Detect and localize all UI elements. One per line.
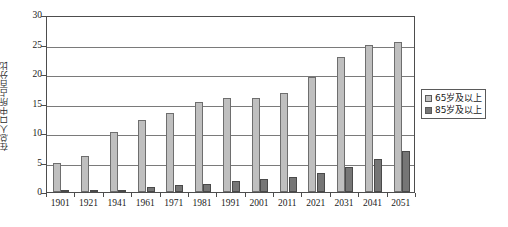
x-axis-tick-mark [273, 193, 274, 197]
x-axis-tick-mark [301, 193, 302, 197]
bar-1961-series1 [138, 120, 146, 192]
x-axis-tick-mark [415, 193, 416, 197]
legend-swatch-icon [425, 107, 432, 114]
y-axis-tick-mark [41, 193, 46, 194]
bar-2051-series1 [394, 42, 402, 192]
y-axis-tick-label: 25 [24, 41, 42, 51]
y-axis-tick-mark [41, 164, 46, 165]
bar-1991-series1 [223, 98, 231, 192]
y-axis-tick-mark [41, 46, 46, 47]
y-axis-tick-mark [41, 16, 46, 17]
bar-1921-series2 [90, 190, 98, 192]
bar-1941-series1 [110, 132, 118, 192]
bar-2011-series1 [280, 93, 288, 192]
bar-1971-series2 [175, 185, 183, 192]
bar-2041-series2 [374, 159, 382, 192]
bar-2021-series1 [308, 77, 316, 192]
x-axis-tick-mark [46, 193, 47, 197]
x-axis-tick-mark [358, 193, 359, 197]
figure-caption [4, 219, 504, 227]
x-axis-tick-mark [188, 193, 189, 197]
legend-label: 65岁及以上 [435, 93, 482, 103]
x-axis-tick-mark [131, 193, 132, 197]
gridline [47, 47, 414, 48]
y-axis-tick-label: 15 [24, 100, 42, 110]
y-axis-tick-mark [41, 75, 46, 76]
x-axis-tick-label: 2051 [381, 198, 421, 209]
x-axis-tick-mark [387, 193, 388, 197]
bar-2041-series1 [365, 45, 373, 193]
y-axis-tick-label: 0 [24, 188, 42, 198]
y-axis-tick-label: 5 [24, 159, 42, 169]
legend-swatch-icon [425, 95, 432, 102]
bar-chart: 在总人口中所占百分比 051015202530 1901192119411961… [0, 0, 508, 227]
bar-1921-series1 [81, 156, 89, 192]
chart-legend: 65岁及以上85岁及以上 [421, 89, 486, 119]
x-axis-tick-mark [216, 193, 217, 197]
bar-1991-series2 [232, 181, 240, 192]
y-axis-tick-labels: 051015202530 [20, 0, 42, 227]
y-axis-title: 在总人口中所占百分比 [1, 26, 15, 186]
bar-2051-series2 [402, 151, 410, 192]
bar-2011-series2 [289, 177, 297, 192]
y-axis-tick-label: 20 [24, 70, 42, 80]
bar-2031-series1 [337, 57, 345, 192]
legend-item-2: 85岁及以上 [425, 104, 482, 116]
bar-1901-series1 [53, 163, 61, 193]
y-axis-tick-label: 10 [24, 129, 42, 139]
x-axis-tick-mark [74, 193, 75, 197]
bar-1981-series1 [195, 102, 203, 192]
legend-label: 85岁及以上 [435, 105, 482, 115]
bar-1941-series2 [118, 190, 126, 192]
bar-1901-series2 [61, 190, 69, 192]
bar-2001-series1 [252, 98, 260, 192]
bar-2021-series2 [317, 173, 325, 192]
y-axis-tick-label: 30 [24, 11, 42, 21]
y-axis-tick-mark [41, 134, 46, 135]
bar-1981-series2 [203, 184, 211, 192]
x-axis-tick-mark [160, 193, 161, 197]
bar-1971-series1 [166, 113, 174, 192]
bar-2031-series2 [345, 167, 353, 192]
y-axis-tick-mark [41, 105, 46, 106]
legend-item-1: 65岁及以上 [425, 92, 482, 104]
x-axis-tick-mark [103, 193, 104, 197]
bar-2001-series2 [260, 179, 268, 192]
x-axis-tick-mark [245, 193, 246, 197]
gridline [47, 76, 414, 77]
plot-area [46, 16, 415, 193]
bar-1961-series2 [147, 187, 155, 192]
x-axis-tick-mark [330, 193, 331, 197]
